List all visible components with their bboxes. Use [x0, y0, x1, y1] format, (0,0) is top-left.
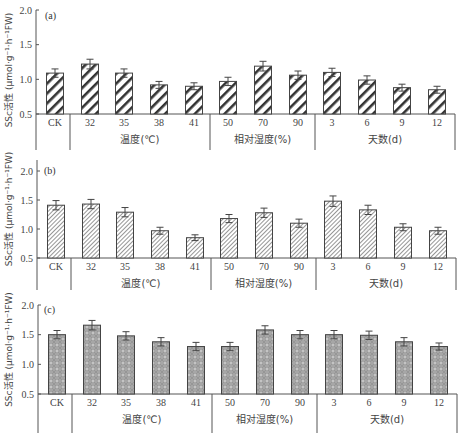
bar-35 — [116, 73, 133, 114]
bar-50 — [222, 347, 239, 394]
y-tick-label: 2.0 — [22, 300, 35, 311]
category-label: CK — [50, 397, 65, 408]
bar-70 — [257, 330, 274, 394]
bar-38 — [153, 342, 170, 394]
bar-CK — [48, 205, 65, 258]
group-label: 相对湿度(%) — [235, 277, 292, 289]
panel-b: 0.51.01.52.0(b)SSc活性 (μmol·g⁻¹·h⁻¹FW)CK3… — [3, 152, 456, 290]
y-tick-label: 0.5 — [20, 109, 33, 120]
bar-38 — [151, 85, 168, 114]
category-label: 90 — [295, 397, 305, 408]
y-tick-label: 0.5 — [22, 389, 35, 400]
category-label: 41 — [190, 261, 200, 272]
group-label: 天数(d) — [370, 413, 404, 425]
bar-9 — [395, 227, 412, 258]
bar-6 — [361, 335, 378, 394]
bar-32 — [83, 204, 100, 258]
bar-CK — [49, 335, 66, 394]
y-tick-label: 1.0 — [22, 359, 35, 370]
category-label: 6 — [365, 117, 370, 128]
bar-32 — [82, 64, 99, 114]
bar-12 — [430, 231, 447, 258]
bar-35 — [118, 336, 135, 394]
bar-70 — [256, 213, 273, 258]
category-label: 3 — [332, 397, 337, 408]
bar-12 — [431, 347, 448, 394]
bar-90 — [290, 75, 307, 114]
bar-90 — [292, 335, 309, 394]
category-label: 50 — [225, 397, 235, 408]
category-label: 90 — [293, 117, 303, 128]
category-label: 12 — [433, 261, 443, 272]
y-tick-label: 1.0 — [21, 224, 34, 235]
bar-3 — [324, 72, 341, 114]
y-axis-label: SSc活性 (μmol·g⁻¹·h⁻¹FW) — [3, 152, 14, 267]
category-label: 35 — [121, 397, 131, 408]
category-label: 3 — [330, 117, 335, 128]
group-label: 温度(℃) — [122, 413, 161, 425]
y-tick-label: 2.0 — [20, 5, 33, 16]
category-label: 35 — [120, 261, 130, 272]
bar-CK — [47, 73, 64, 114]
group-label: 相对湿度(%) — [234, 133, 291, 145]
group-label: 温度(℃) — [121, 277, 160, 289]
y-tick-label: 1.5 — [21, 195, 34, 206]
category-label: 6 — [367, 397, 372, 408]
category-label: 32 — [86, 261, 96, 272]
panel-a: 0.51.01.52.0(a)SSc活性 (μmol·g⁻¹·h⁻¹FW)CK3… — [3, 5, 455, 151]
bar-70 — [255, 66, 272, 114]
panel-tag: (b) — [44, 165, 56, 177]
category-label: 32 — [87, 397, 97, 408]
chart-figure: 0.51.01.52.0(a)SSc活性 (μmol·g⁻¹·h⁻¹FW)CK3… — [0, 0, 462, 433]
category-label: 6 — [366, 261, 371, 272]
bar-50 — [221, 219, 238, 258]
category-label: CK — [48, 117, 63, 128]
category-label: 38 — [156, 397, 166, 408]
category-label: 41 — [191, 397, 201, 408]
group-label: 相对湿度(%) — [236, 413, 293, 425]
bar-9 — [396, 342, 413, 394]
category-label: 9 — [402, 397, 407, 408]
bar-50 — [220, 81, 237, 114]
group-label: 天数(d) — [368, 133, 402, 145]
panel-tag: (c) — [44, 304, 55, 316]
category-label: 90 — [294, 261, 304, 272]
y-tick-label: 1.5 — [20, 39, 33, 50]
category-label: 38 — [155, 261, 165, 272]
category-label: 35 — [119, 117, 129, 128]
y-axis-label: SSc活性 (μmol·g⁻¹·h⁻¹FW) — [3, 13, 14, 128]
bar-90 — [291, 223, 308, 258]
category-label: 12 — [434, 397, 444, 408]
category-label: 50 — [224, 261, 234, 272]
y-tick-label: 1.0 — [20, 74, 33, 85]
category-label: 70 — [260, 397, 270, 408]
group-label: 温度(℃) — [120, 133, 159, 145]
category-label: 9 — [400, 117, 405, 128]
y-tick-label: 1.5 — [22, 329, 35, 340]
category-label: 32 — [85, 117, 95, 128]
panel-c: 0.51.01.52.0(c)SSc活性 (μmol·g⁻¹·h⁻¹FW)CK3… — [3, 292, 457, 433]
category-label: 41 — [189, 117, 199, 128]
bar-32 — [84, 325, 101, 394]
panel-tag: (a) — [45, 10, 56, 22]
bar-41 — [186, 86, 203, 114]
bar-38 — [152, 231, 169, 258]
group-label: 天数(d) — [369, 277, 403, 289]
category-label: 50 — [223, 117, 233, 128]
category-label: 3 — [331, 261, 336, 272]
category-label: CK — [49, 261, 64, 272]
bar-6 — [359, 80, 376, 114]
y-tick-label: 0.5 — [21, 253, 34, 264]
y-axis-label: SSc活性 (μmol·g⁻¹·h⁻¹FW) — [3, 292, 14, 407]
category-label: 12 — [432, 117, 442, 128]
bar-3 — [325, 201, 342, 258]
bar-3 — [326, 335, 343, 394]
category-label: 9 — [401, 261, 406, 272]
y-tick-label: 2.0 — [21, 166, 34, 177]
category-label: 38 — [154, 117, 164, 128]
category-label: 70 — [258, 117, 268, 128]
bar-6 — [360, 210, 377, 258]
category-label: 70 — [259, 261, 269, 272]
bar-41 — [188, 347, 205, 394]
bar-35 — [117, 212, 134, 258]
